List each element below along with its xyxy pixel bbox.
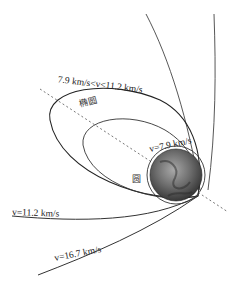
label-ellipse-name: 椭圆 <box>78 94 98 109</box>
label-solar-escape-speed: v=16.7 km/s <box>53 244 102 263</box>
label-escape-speed: v=11.2 km/s <box>12 207 60 219</box>
label-circle-name: 圆 <box>132 174 141 184</box>
parabolic-trajectory-upper <box>208 14 215 190</box>
major-axis-dashed-line <box>40 89 228 212</box>
label-ellipse-range: 7.9 km/s<v<11.2 km/s <box>57 74 143 94</box>
hyperbolic-trajectory-lower <box>38 196 198 275</box>
orbital-velocity-diagram: 7.9 km/s<v<11.2 km/s 椭圆 v=7.9 km/s 圆 v=1… <box>0 0 235 289</box>
